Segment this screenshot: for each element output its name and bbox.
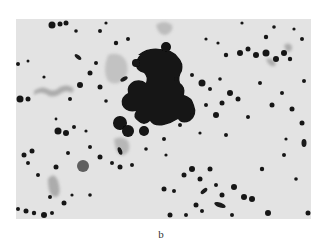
panel-label: b	[0, 228, 322, 240]
micrograph-image	[16, 19, 311, 219]
round-cell	[77, 160, 89, 172]
figure-panel: b	[0, 0, 322, 246]
